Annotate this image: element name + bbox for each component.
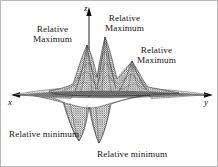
annotation-line: Maximum [137,55,176,65]
annotation-relative-maximum-right: Relative Maximum [137,45,176,66]
annotation-relative-minimum-left: Relative minimum [9,129,79,139]
annotation-line: Relative [33,24,72,34]
annotation-line: Maximum [33,34,72,44]
annotation-line: Relative [137,45,176,55]
annotation-line: Relative [105,13,144,23]
z-axis-label: z [84,3,88,13]
annotation-relative-maximum-middle: Relative Maximum [105,13,144,34]
annotation-relative-minimum-middle: Relative minimum [97,149,167,159]
x-axis-label: x [8,97,12,107]
y-axis-label: y [204,97,208,107]
surface-plot-figure: Relative Maximum Relative Maximum Relati… [0,0,218,167]
annotation-line: Maximum [105,23,144,33]
annotation-relative-maximum-left: Relative Maximum [33,24,72,45]
